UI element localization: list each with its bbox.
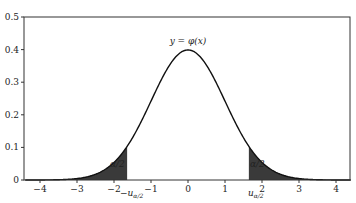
left-critical-label: −uα/2	[120, 188, 143, 199]
y-tick-label: 0.3	[5, 77, 20, 87]
x-tick-label: 3	[296, 184, 302, 194]
x-tick-label: 4	[333, 184, 339, 194]
x-tick-label: −2	[107, 184, 120, 194]
x-tick-label: 0	[185, 184, 191, 194]
y-tick-label: 0.4	[5, 45, 20, 55]
x-tick-label: 1	[222, 184, 228, 194]
y-tick-label: 0.5	[5, 12, 20, 22]
left-tail-label: α/2	[110, 159, 125, 169]
x-tick-label: −1	[144, 184, 157, 194]
x-tick-label: −4	[33, 184, 47, 194]
normal-distribution-chart: −4−3−2−101234 00.10.20.30.40.5 y = φ(x) …	[0, 0, 356, 203]
y-axis-ticks: 00.10.20.30.40.5	[5, 12, 24, 185]
y-tick-label: 0	[13, 175, 19, 185]
right-tail-label: α/2	[250, 159, 265, 169]
shaded-tails	[25, 146, 351, 180]
curve-label: y = φ(x)	[169, 36, 207, 46]
y-tick-label: 0.2	[5, 110, 19, 120]
y-tick-label: 0.1	[5, 142, 19, 152]
x-tick-label: −3	[70, 184, 84, 194]
x-axis-ticks: −4−3−2−101234	[33, 180, 339, 194]
density-curve	[25, 50, 351, 180]
